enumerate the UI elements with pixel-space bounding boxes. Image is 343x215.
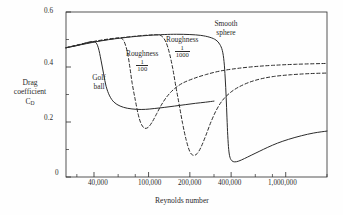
y-axis-title-line-2: coefficient: [2, 87, 58, 96]
golf-ball-label: Golf ball: [86, 74, 112, 91]
xtick-label-400000: 400,000: [218, 180, 241, 188]
y-axis-title-line-1: Drag: [2, 78, 58, 87]
smooth-sphere-label: Smooth sphere: [206, 20, 246, 37]
roughness-1000-denominator: 1000: [175, 51, 190, 59]
y-axis-subscript: D: [31, 100, 35, 106]
y-axis-title: Drag coefficient CD: [2, 78, 58, 106]
xtick-label-1000000: 1,000,000: [268, 180, 297, 188]
ytick-label-0.4: 0.4: [44, 60, 53, 68]
roughness-100-denominator: 100: [136, 65, 148, 73]
roughness-100-fraction: 1 100: [136, 59, 148, 73]
smooth-sphere-label-line-2: sphere: [206, 29, 246, 38]
ytick-label-0: 0: [55, 170, 59, 178]
roughness-1000-label: Roughness 1 1000: [166, 36, 198, 59]
xtick-label-200000: 200,000: [178, 180, 201, 188]
golf-ball-label-line-2: ball: [86, 83, 112, 92]
xtick-label-100000: 100,000: [138, 180, 161, 188]
roughness-1000-numerator: 1: [175, 45, 190, 52]
x-axis-title: Reynolds number: [155, 197, 209, 205]
ytick-label-0.6: 0.6: [44, 8, 53, 16]
roughness-100-label: Roughness 1 100: [126, 50, 158, 73]
roughness-100-numerator: 1: [136, 59, 148, 66]
roughness-1000-fraction: 1 1000: [175, 45, 190, 59]
y-axis-title-line-3: CD: [2, 97, 58, 106]
ytick-label-0.2: 0.2: [44, 115, 53, 123]
y-axis-symbol: C: [25, 97, 30, 106]
drag-coefficient-chart: 0.6 0.4 0.2 0 Drag coefficient CD 40,000…: [0, 0, 343, 215]
xtick-label-40000: 40,000: [88, 180, 108, 188]
